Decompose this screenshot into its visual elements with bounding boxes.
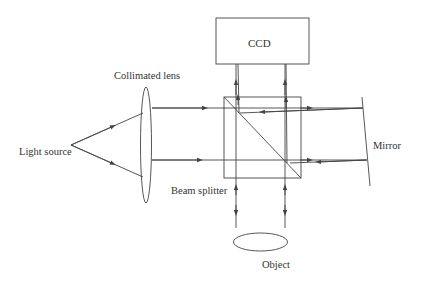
source-rays [71,113,143,177]
label-beam-splitter: Beam splitter [171,186,227,197]
object-beams [236,187,285,213]
collimated-lens-shape [141,87,152,203]
label-light-source: Light source [19,147,72,158]
object-shape [234,233,288,251]
interferometer-diagram: Light source Collimated lens CCD Beam sp… [0,0,423,282]
label-collimated-lens: Collimated lens [114,71,180,82]
mirror-shape [362,97,370,186]
label-mirror: Mirror [373,141,401,152]
diagram-canvas [0,0,423,282]
label-object: Object [262,260,290,271]
label-ccd: CCD [248,38,271,49]
ccd-beams [236,64,287,228]
mirror-return-beams [240,108,367,163]
